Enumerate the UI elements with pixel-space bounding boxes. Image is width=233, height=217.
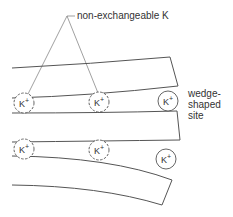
wedge-site-line3: site (188, 110, 221, 121)
k-ion-interlayer: K+ (14, 139, 34, 159)
k-ion-wedge-site: K+ (158, 91, 178, 111)
upper-layer (12, 57, 178, 98)
wedge-site-label: wedge- shaped site (188, 88, 221, 121)
k-ion-interlayer: K+ (89, 140, 109, 160)
middle-layer (12, 111, 180, 142)
potassium-ions: K+K+K+K+K+K+ (14, 91, 178, 169)
lower-layer (12, 156, 172, 205)
non-exchangeable-k-label: non-exchangeable K (77, 10, 169, 21)
pointer-lines (28, 16, 98, 94)
wedge-site-line2: shaped (188, 99, 221, 110)
k-ion-non-exchangeable: K+ (14, 93, 34, 113)
wedge-site-line1: wedge- (188, 88, 221, 99)
k-ion-non-exchangeable: K+ (89, 92, 109, 112)
k-ion-wedge-site: K+ (156, 149, 176, 169)
